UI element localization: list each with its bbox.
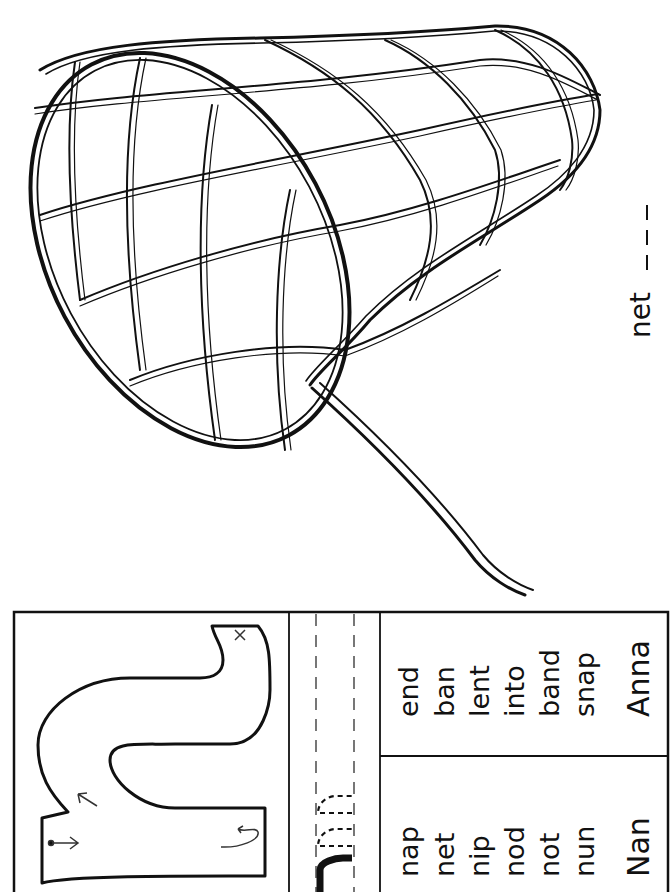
dotted-letters [318,796,352,846]
worksheet-drawing [0,0,672,892]
letter-n-outline [38,626,270,883]
word-nun: nun [571,826,598,877]
arrow-right-icon [52,837,78,849]
word-band: band [536,649,563,717]
word-net: net [431,833,458,877]
word-lent: lent [466,665,493,717]
arrow-up-left-icon [78,793,97,806]
curve-arrow-icon [221,826,258,847]
stroke-guides [49,630,259,849]
word-not: not [536,833,563,877]
name-anna: Anna [624,640,654,717]
word-ban: ban [431,666,458,717]
picture-caption: net [627,292,655,338]
word-snap: snap [571,652,598,717]
word-nap: nap [395,826,422,877]
word-nod: nod [501,826,528,877]
end-x-icon [235,630,245,640]
net-illustration-icon [0,0,600,595]
tracing-guidelines [316,614,354,892]
word-end: end [395,666,422,717]
solid-letter-n [320,858,352,892]
word-nip: nip [466,835,493,877]
name-nan: Nan [624,817,654,877]
word-into: into [501,665,528,717]
